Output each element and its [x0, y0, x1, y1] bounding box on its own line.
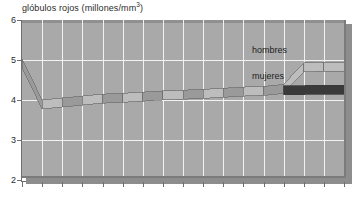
ribbon-trunk-segment-3	[82, 94, 102, 105]
ribbon-trunk-segment-0	[22, 59, 42, 109]
x-axis-tick-4	[103, 182, 104, 187]
ribbon-trunk-segment-4	[103, 93, 123, 103]
x-axis-tick-8	[183, 182, 184, 187]
x-axis-tick-3	[82, 182, 83, 187]
ribbon-trunk-segment-10	[223, 87, 243, 97]
x-axis-tick-9	[203, 182, 204, 187]
y-axis-tick-label-4: 4	[2, 96, 16, 105]
x-axis-tick-2	[62, 182, 63, 187]
x-axis-tick-15	[324, 182, 325, 187]
x-axis-tick-12	[264, 182, 265, 187]
x-axis-tick-16	[344, 182, 345, 187]
ribbon-mujeres-segment-15	[324, 85, 344, 94]
x-axis-tick-6	[143, 182, 144, 187]
chart-title: glóbulos rojos (millones/mm3)	[22, 1, 143, 13]
ribbon-hombres-segment-14	[304, 62, 324, 72]
x-axis-tick-10	[223, 182, 224, 187]
ribbon-trunk-segment-11	[243, 86, 263, 96]
ribbon-trunk-segment-8	[183, 89, 203, 99]
ribbon-trunk-segment-9	[203, 88, 223, 98]
ribbon-mujeres-segment-13	[284, 86, 304, 95]
ribbon-mujeres-segment-14	[304, 85, 324, 94]
y-axis-tick-label-6: 6	[2, 16, 16, 25]
chart-title-main: glóbulos rojos (millones/mm	[22, 3, 136, 13]
x-axis-tick-7	[163, 182, 164, 187]
y-axis-tick-label-5: 5	[2, 56, 16, 65]
ribbon-trunk-segment-2	[62, 96, 82, 107]
ribbon-trunk-segment-7	[163, 90, 183, 100]
chart-container: glóbulos rojos (millones/mm3) 6 5 4 3 2 …	[0, 0, 354, 197]
series-label-mujeres: mujeres	[252, 72, 284, 81]
x-axis-tick-14	[304, 182, 305, 187]
ribbon-trunk-segment-6	[143, 91, 163, 101]
y-axis-tick-label-3: 3	[2, 136, 16, 145]
x-axis-tick-5	[123, 182, 124, 187]
y-axis-tick-label-2: 2	[2, 176, 16, 185]
series-label-hombres: hombres	[252, 46, 287, 55]
ribbon-hombres-segment-15	[324, 62, 344, 71]
x-axis-tick-11	[243, 182, 244, 187]
plot-area	[22, 20, 346, 178]
ribbon-trunk-segment-5	[123, 92, 143, 102]
x-axis-tick-13	[284, 182, 285, 187]
data-ribbon	[22, 20, 344, 176]
chart-title-tail: )	[140, 3, 143, 13]
ribbon-trunk-segment-1	[42, 98, 62, 109]
plot-area-wrapper: hombres mujeres	[22, 20, 348, 180]
x-axis-tick-1	[42, 182, 43, 187]
ribbon-trunk-segment-12	[264, 84, 284, 95]
x-axis-tick-0	[22, 182, 23, 187]
